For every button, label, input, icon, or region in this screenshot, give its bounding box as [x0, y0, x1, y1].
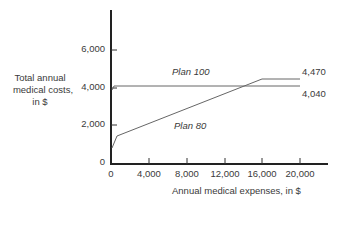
plan-80-end-value: 4,470	[302, 66, 326, 77]
series-plan-100	[112, 86, 300, 90]
y-tick-label: 0	[65, 156, 105, 167]
y-tick-label: 6,000	[65, 43, 105, 54]
plan-100-label: Plan 100	[172, 66, 210, 77]
y-tick-label: 2,000	[65, 118, 105, 129]
plan-80-label: Plan 80	[174, 120, 206, 131]
x-tick-label: 16,000	[242, 168, 282, 179]
x-axis-title: Annual medical expenses, in $	[172, 185, 301, 196]
x-tick-label: 0	[91, 168, 131, 179]
y-tick-label: 4,000	[65, 81, 105, 92]
x-tick-label: 12,000	[205, 168, 245, 179]
series-plan-80	[112, 79, 300, 148]
x-tick-label: 20,000	[280, 168, 320, 179]
y-axis-title-line3: in $	[0, 96, 80, 108]
x-tick-label: 8,000	[167, 168, 207, 179]
plan-100-end-value: 4,040	[302, 88, 326, 99]
x-tick-label: 4,000	[129, 168, 169, 179]
